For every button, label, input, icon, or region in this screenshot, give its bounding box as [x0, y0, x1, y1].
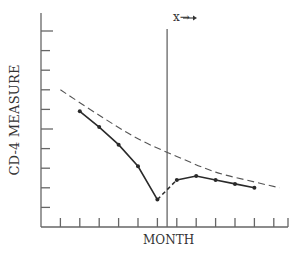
pre-treatment-line: [80, 111, 158, 199]
expected-trend-dashed-line: [60, 90, 279, 188]
arrowhead-icon: [193, 16, 197, 21]
data-point: [136, 164, 140, 168]
y-axis-label: CD-4 MEASURE: [7, 64, 22, 175]
treatment-marker-line: [167, 16, 197, 228]
data-point: [252, 186, 256, 190]
data-point: [117, 143, 121, 147]
x-axis-label: MONTH: [143, 233, 194, 247]
data-point: [194, 174, 198, 178]
data-point: [233, 182, 237, 186]
data-point: [175, 178, 179, 182]
data-point: [78, 109, 82, 113]
treatment-start-label: x→: [173, 10, 190, 24]
chart-canvas: [0, 0, 293, 257]
data-series: [60, 90, 279, 202]
axes: [41, 13, 288, 227]
data-point: [97, 125, 101, 129]
data-point: [214, 178, 218, 182]
